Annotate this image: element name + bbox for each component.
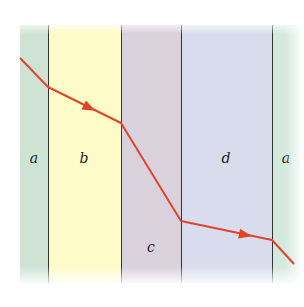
arrowhead-icon — [82, 100, 98, 115]
light-ray — [0, 0, 304, 307]
